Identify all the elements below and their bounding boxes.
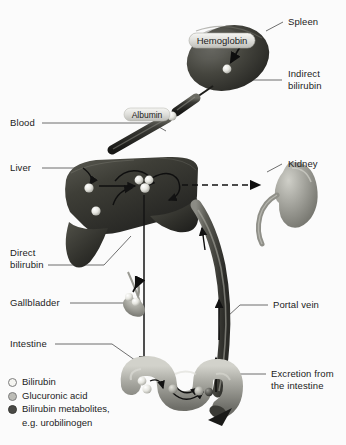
- metabolite-bead-intestine-1: [168, 384, 177, 393]
- metabolite-bead-intestine-2: [194, 386, 203, 395]
- bilirubin-bead-spleen: [223, 65, 232, 74]
- glucuronic-acid-bead-liver: [135, 176, 144, 185]
- hemoglobin-tag-label: Hemoglobin: [197, 35, 248, 46]
- label-gallbladder: Gallbladder: [10, 297, 60, 309]
- bilirubin-bead-gallbladder-1: [125, 293, 133, 301]
- legend-label-bilirubin-metabolites: Bilirubin metabolites,: [22, 403, 110, 414]
- legend-marker-glucuronic-acid-icon: [8, 392, 17, 401]
- label-direct-bilirubin-line2: bilirubin: [10, 259, 44, 271]
- figure-canvas: Hemoglobin Albumin: [0, 0, 346, 445]
- legend-item-bilirubin-metabolites: Bilirubin metabolites,: [8, 403, 158, 415]
- legend-label-bilirubin: Bilirubin: [22, 376, 56, 388]
- legend-label-bilirubin-metabolites-2: e.g. urobilinogen: [22, 417, 92, 429]
- bilirubin-bead-liver-2: [91, 206, 100, 215]
- label-liver: Liver: [10, 162, 31, 174]
- label-indirect-bilirubin-line1: Indirect: [288, 68, 320, 80]
- label-spleen: Spleen: [288, 16, 318, 28]
- legend-item-glucuronic-acid: Glucuronic acid: [8, 390, 158, 402]
- legend-item-bilirubin-metabolites-line2: e.g. urobilinogen: [22, 417, 158, 429]
- label-excretion-line1: Excretion from: [271, 368, 334, 380]
- direct-bilirubin-bead-liver-1: [140, 183, 150, 193]
- label-kidney: Kidney: [288, 158, 318, 170]
- legend-label-glucuronic-acid: Glucuronic acid: [22, 390, 87, 402]
- albumin-tag: Albumin: [124, 108, 170, 121]
- legend-marker-bilirubin-icon: [8, 378, 17, 387]
- direct-bilirubin-bead-liver-2: [145, 176, 154, 185]
- legend-marker-bilirubin-metabolites-icon: [8, 405, 17, 414]
- label-indirect-bilirubin-line2: bilirubin: [288, 80, 322, 92]
- bilirubin-bead-gallbladder-2: [132, 298, 140, 306]
- label-portal-vein: Portal vein: [273, 299, 319, 311]
- label-blood: Blood: [10, 117, 35, 129]
- label-intestine: Intestine: [10, 338, 47, 350]
- bilirubin-bead-liver-1: [84, 183, 93, 192]
- metabolite-bead-intestine-3: [205, 388, 213, 396]
- legend-item-bilirubin: Bilirubin: [8, 376, 158, 388]
- label-direct-bilirubin-line1: Direct: [10, 247, 35, 259]
- hemoglobin-tag: Hemoglobin: [189, 33, 255, 48]
- albumin-tag-label: Albumin: [132, 110, 163, 120]
- legend: Bilirubin Glucuronic acid Bilirubin meta…: [8, 376, 158, 430]
- label-excretion-line2: the intestine: [271, 380, 324, 392]
